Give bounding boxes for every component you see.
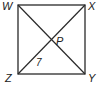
vertex-label-x: X	[87, 0, 96, 12]
vertex-label-y: Y	[88, 72, 96, 84]
square-diagram: W X Y Z P 7	[0, 0, 99, 88]
segment-length-label: 7	[36, 57, 42, 68]
vertex-label-z: Z	[4, 72, 13, 84]
vertex-label-w: W	[2, 0, 14, 12]
intersection-label-p: P	[56, 35, 64, 47]
